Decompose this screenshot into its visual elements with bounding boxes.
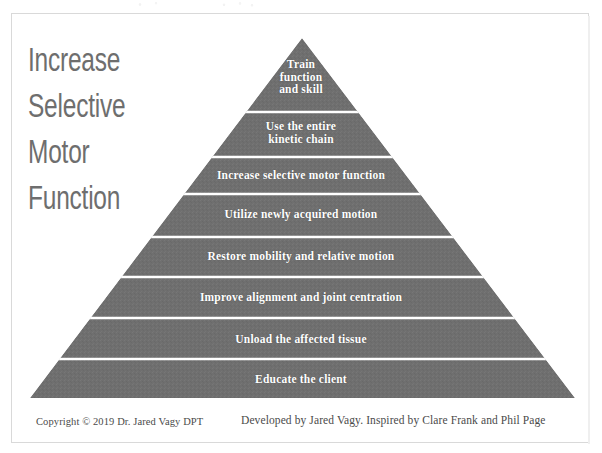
copyright-notice: Copyright © 2019 Dr. Jared Vagy DPT <box>36 416 203 427</box>
pyramid-diagram <box>0 0 602 453</box>
pyramid-shape <box>30 38 575 398</box>
pyramid-body <box>20 38 582 398</box>
slide-canvas: Increase Selective Motor Function <box>0 0 602 453</box>
credit-line: Developed by Jared Vagy. Inspired by Cla… <box>241 414 546 426</box>
